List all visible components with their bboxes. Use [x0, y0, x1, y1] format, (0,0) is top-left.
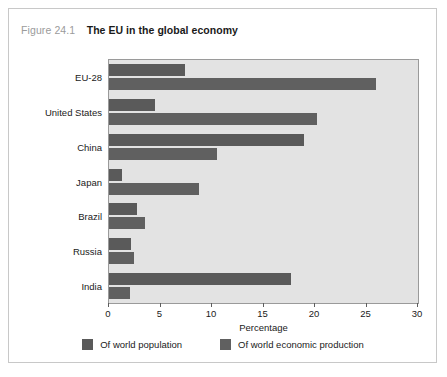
x-axis-tick-label: 15 [257, 308, 268, 319]
category-label: China [77, 141, 102, 152]
figure-header: Figure 24.1 The EU in the global economy [21, 20, 238, 38]
category-label: Brazil [78, 211, 102, 222]
x-axis-tick-label: 5 [157, 308, 162, 319]
category-label: United States [45, 107, 102, 118]
x-axis-tick [263, 303, 264, 307]
plot-frame: EU-28United StatesChinaJapanBrazilRussia… [108, 59, 419, 304]
bar-population [109, 238, 131, 250]
figure-number: Figure 24.1 [21, 24, 75, 36]
x-axis-tick-label: 10 [206, 308, 217, 319]
category-label: Russia [73, 245, 102, 256]
bar-population [109, 64, 185, 76]
x-axis-tick-label: 0 [105, 308, 110, 319]
legend-item-population: Of world population [82, 339, 182, 350]
bar-population [109, 273, 291, 285]
x-axis-tick [314, 303, 315, 307]
chart-legend: Of world population Of world economic pr… [21, 339, 425, 350]
x-axis-tick-label: 25 [360, 308, 371, 319]
bar-production [109, 252, 134, 264]
bar-production [109, 287, 130, 299]
bar-population [109, 134, 304, 146]
legend-label: Of world population [100, 339, 182, 350]
figure-container: Figure 24.1 The EU in the global economy… [8, 8, 437, 363]
bar-population [109, 203, 137, 215]
category-label: Japan [76, 176, 102, 187]
x-axis-tick [108, 303, 109, 307]
bars-layer: EU-28United StatesChinaJapanBrazilRussia… [109, 60, 418, 303]
legend-item-production: Of world economic production [220, 339, 364, 350]
category-label: EU-28 [75, 72, 102, 83]
x-axis-label: Percentage [108, 322, 419, 333]
legend-swatch-icon [82, 339, 93, 350]
x-axis-tick [160, 303, 161, 307]
chart-area: EU-28United StatesChinaJapanBrazilRussia… [21, 45, 425, 351]
bar-population [109, 169, 122, 181]
bar-production [109, 113, 317, 125]
bar-population [109, 99, 155, 111]
category-label: India [81, 280, 102, 291]
legend-swatch-icon [220, 339, 231, 350]
x-axis-tick-label: 30 [412, 308, 423, 319]
bar-production [109, 78, 376, 90]
bar-production [109, 148, 217, 160]
x-axis-tick-label: 20 [309, 308, 320, 319]
x-axis-tick [211, 303, 212, 307]
bar-production [109, 217, 145, 229]
x-axis-tick [417, 303, 418, 307]
bar-production [109, 183, 199, 195]
page-title: The EU in the global economy [87, 24, 238, 36]
x-axis-tick [366, 303, 367, 307]
legend-label: Of world economic production [238, 339, 364, 350]
